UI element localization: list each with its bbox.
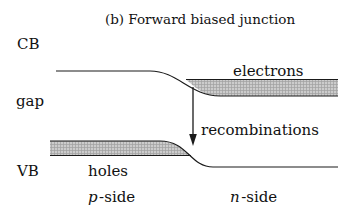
- conduction-band-label: CB: [17, 35, 40, 53]
- band-diagram-canvas: (b) Forward biased junction CB gap VB el…: [0, 0, 352, 218]
- n-side-label: n-side: [230, 188, 277, 206]
- p-side-suffix: -side: [99, 188, 135, 206]
- gap-label: gap: [16, 92, 44, 110]
- electrons-band-fill: [186, 80, 338, 97]
- p-side-italic-letter: p: [88, 188, 98, 206]
- valence-band-label: VB: [16, 162, 39, 180]
- n-side-italic-letter: n: [230, 188, 240, 206]
- recombinations-label: recombinations: [201, 121, 319, 139]
- n-side-suffix: -side: [241, 188, 277, 206]
- band-diagram-figure: (b) Forward biased junction CB gap VB el…: [0, 0, 352, 218]
- figure-title: (b) Forward biased junction: [105, 11, 296, 27]
- holes-label: holes: [88, 162, 128, 180]
- holes-band-fill: [50, 141, 191, 156]
- electrons-label: electrons: [233, 62, 304, 80]
- recombination-arrow-head-icon: [189, 134, 197, 146]
- p-side-label: p-side: [88, 188, 135, 206]
